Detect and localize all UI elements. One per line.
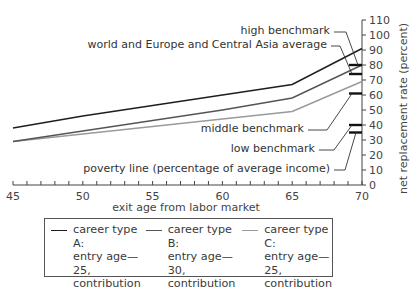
- benchmark-label: world and Europe and Central Asia averag…: [88, 38, 328, 51]
- legend-item-career-b: career type B: entry age—30, contributio…: [142, 219, 239, 276]
- y-tick-label: 90: [369, 44, 383, 57]
- y-tick-label: 30: [369, 134, 383, 147]
- benchmark-label: low benchmark: [231, 142, 316, 155]
- y-tick-label: 40: [369, 119, 383, 132]
- y-tick-label: 50: [369, 104, 383, 117]
- x-tick-label: 50: [76, 190, 90, 203]
- line-chart: 455055606570exit age from labor market01…: [0, 0, 418, 215]
- benchmark-label: high benchmark: [240, 24, 330, 37]
- benchmark-label: middle benchmark: [201, 122, 305, 135]
- x-tick-label: 70: [355, 190, 369, 203]
- legend-label: career type A: entry age—25, contributio…: [73, 223, 142, 276]
- legend-swatch-a: [51, 230, 67, 231]
- y-tick-label: 10: [369, 164, 383, 177]
- x-tick-label: 45: [6, 190, 20, 203]
- y-tick-label: 0: [369, 179, 376, 192]
- y-tick-label: 70: [369, 74, 383, 87]
- x-tick-label: 65: [285, 190, 299, 203]
- legend-item-career-a: career type A: entry age—25, contributio…: [45, 219, 142, 276]
- y-tick-label: 80: [369, 59, 383, 72]
- y-tick-label: 100: [369, 29, 390, 42]
- legend-label: career type C: entry age—25, contributio…: [264, 223, 332, 276]
- legend-label: career type B: entry age—30, contributio…: [168, 223, 239, 276]
- benchmark-label: poverty line (percentage of average inco…: [83, 162, 330, 175]
- y-tick-label: 20: [369, 149, 383, 162]
- y-tick-label: 110: [369, 14, 390, 27]
- legend-item-career-c: career type C: entry age—25, contributio…: [238, 219, 332, 276]
- x-axis-label: exit age from labor market: [112, 201, 260, 214]
- series-line: [13, 49, 362, 129]
- legend: career type A: entry age—25, contributio…: [44, 218, 333, 277]
- legend-swatch-b: [146, 230, 162, 231]
- y-tick-label: 60: [369, 89, 383, 102]
- legend-swatch-c: [242, 230, 258, 231]
- y-axis-label: net replacement rate (percent): [397, 23, 410, 194]
